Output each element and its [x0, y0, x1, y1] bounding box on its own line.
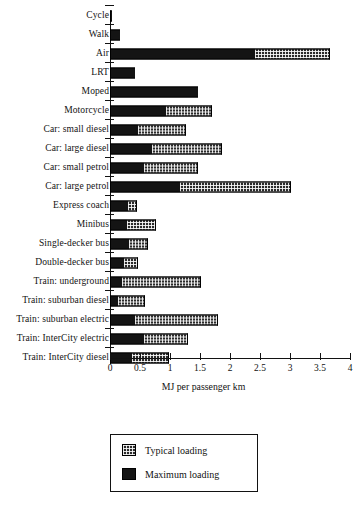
bar-row: Single-decker bus [0, 234, 359, 253]
category-label: Double-decker bus [35, 258, 109, 268]
bar-row: Double-decker bus [0, 253, 359, 272]
y-axis-tick [105, 252, 114, 253]
x-axis-tick-label: 3.5 [314, 363, 326, 373]
bar-row: Train: InterCity electric [0, 329, 359, 348]
bar-segment-typical-loading [127, 219, 156, 230]
bar-chart-figure: CycleWalkAirLRTMopedMotorcycleCar: small… [0, 0, 359, 511]
x-axis-tick [230, 353, 231, 360]
x-axis-tick-label: 4 [348, 363, 353, 373]
category-label: Car: large petrol [45, 182, 109, 192]
bar-segment-typical-loading [129, 238, 148, 249]
x-axis-title: MJ per passenger km [0, 381, 359, 392]
bar-segment-typical-loading [144, 333, 188, 344]
stacked-bar [110, 200, 137, 211]
category-label: Moped [82, 87, 109, 97]
y-axis-tick [105, 43, 114, 44]
legend-swatch-typical-icon [122, 444, 136, 456]
stacked-bar [110, 238, 148, 249]
y-axis-tick [105, 233, 114, 234]
bar-segment-maximum-loading [110, 86, 198, 97]
stacked-bar [110, 276, 201, 287]
bar-segment-maximum-loading [110, 105, 166, 116]
category-label: Car: small petrol [43, 163, 109, 173]
y-axis-tick [105, 62, 114, 63]
stacked-bar [110, 29, 120, 40]
bar-row: Moped [0, 82, 359, 101]
y-axis-tick [105, 347, 114, 348]
bar-segment-maximum-loading [110, 181, 180, 192]
category-label: Train: suburban diesel [22, 296, 109, 306]
bar-row: Cycle [0, 6, 359, 25]
y-axis-tick [105, 24, 114, 25]
bar-row: Car: large petrol [0, 177, 359, 196]
y-axis-tick [105, 81, 114, 82]
x-axis-tick [320, 353, 321, 360]
plot-area: CycleWalkAirLRTMopedMotorcycleCar: small… [0, 6, 359, 358]
x-axis-tick [350, 353, 351, 360]
stacked-bar [110, 181, 291, 192]
x-axis-tick [170, 353, 171, 360]
x-axis-tick-label: 2.5 [254, 363, 266, 373]
bar-segment-typical-loading [180, 181, 291, 192]
bar-row: Express coach [0, 196, 359, 215]
bar-row: Train: underground [0, 272, 359, 291]
x-axis-tick [110, 353, 111, 360]
y-axis-tick [105, 5, 114, 6]
category-label: LRT [91, 68, 109, 78]
category-label: Train: suburban electric [16, 315, 109, 325]
bar-row: Car: small diesel [0, 120, 359, 139]
x-axis-tick-label: 0 [108, 363, 113, 373]
bar-segment-typical-loading [138, 124, 187, 135]
y-axis-tick [105, 309, 114, 310]
x-axis-tick-label: 3 [288, 363, 293, 373]
stacked-bar [110, 314, 218, 325]
bar-segment-maximum-loading [110, 48, 255, 59]
x-axis-tick [140, 353, 141, 360]
y-axis-tick [105, 195, 114, 196]
stacked-bar [110, 105, 212, 116]
bar-segment-typical-loading [118, 295, 146, 306]
bar-segment-maximum-loading [110, 67, 135, 78]
bar-row: LRT [0, 63, 359, 82]
y-axis-tick [105, 214, 114, 215]
bar-segment-typical-loading [135, 314, 218, 325]
bar-segment-maximum-loading [110, 238, 129, 249]
y-axis-tick [105, 157, 114, 158]
bar-segment-typical-loading [166, 105, 212, 116]
x-axis-tick [260, 353, 261, 360]
stacked-bar [110, 124, 186, 135]
x-axis-tick-label: 1.5 [194, 363, 206, 373]
bar-segment-maximum-loading [110, 29, 120, 40]
category-label: Train: underground [34, 277, 109, 287]
bar-segment-maximum-loading [110, 200, 128, 211]
chart-legend: Typical loading Maximum loading [110, 434, 258, 492]
bar-row: Train: suburban electric [0, 310, 359, 329]
y-axis-tick [105, 328, 114, 329]
bar-row: Walk [0, 25, 359, 44]
category-label: Car: large diesel [45, 144, 109, 154]
y-axis-tick [105, 290, 114, 291]
stacked-bar [110, 86, 198, 97]
bar-segment-maximum-loading [110, 219, 127, 230]
stacked-bar [110, 295, 145, 306]
category-label: Train: InterCity electric [17, 334, 109, 344]
bar-segment-typical-loading [144, 162, 199, 173]
bar-segment-maximum-loading [110, 10, 112, 21]
category-label: Motorcycle [64, 106, 109, 116]
bar-row: Motorcycle [0, 101, 359, 120]
bar-segment-typical-loading [128, 200, 137, 211]
bar-row: Train: suburban diesel [0, 291, 359, 310]
bar-segment-maximum-loading [110, 162, 144, 173]
y-axis-tick [105, 271, 114, 272]
bar-segment-maximum-loading [110, 314, 135, 325]
y-axis-tick [105, 100, 114, 101]
bar-segment-maximum-loading [110, 257, 124, 268]
stacked-bar [110, 67, 135, 78]
bar-segment-maximum-loading [110, 143, 152, 154]
y-axis-tick [105, 138, 114, 139]
legend-label-typical: Typical loading [145, 445, 207, 456]
stacked-bar [110, 162, 198, 173]
y-axis-tick [105, 176, 114, 177]
bar-segment-typical-loading [152, 143, 222, 154]
category-label: Train: InterCity diesel [23, 353, 109, 363]
